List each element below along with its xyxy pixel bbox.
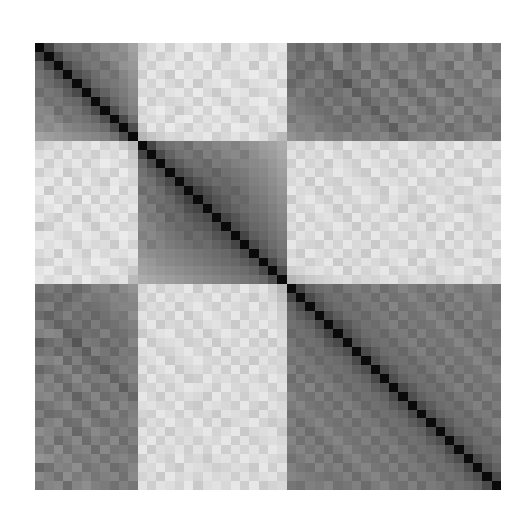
heatmap-cell xyxy=(343,392,352,401)
heatmap-cell xyxy=(277,293,286,302)
heatmap-cell xyxy=(147,311,156,320)
heatmap-cell xyxy=(91,347,100,356)
heatmap-cell xyxy=(91,410,100,419)
heatmap-cell xyxy=(259,195,268,204)
heatmap-cell xyxy=(249,418,258,427)
heatmap-cell xyxy=(333,52,342,61)
heatmap-cell xyxy=(333,141,342,150)
heatmap-cell xyxy=(193,52,202,61)
heatmap-cell xyxy=(454,258,463,267)
heatmap-cell xyxy=(371,132,380,141)
heatmap-cell xyxy=(156,249,165,258)
heatmap-cell xyxy=(408,177,417,186)
heatmap-cell xyxy=(464,231,473,240)
heatmap-cell xyxy=(259,204,268,213)
heatmap-cell xyxy=(287,275,296,284)
heatmap-cell xyxy=(119,347,128,356)
heatmap-cell xyxy=(212,115,221,124)
heatmap-cell xyxy=(128,106,137,115)
heatmap-cell xyxy=(445,115,454,124)
heatmap-cell xyxy=(91,293,100,302)
heatmap-cell xyxy=(315,481,324,490)
heatmap-cell xyxy=(44,302,53,311)
heatmap-cell xyxy=(119,97,128,106)
heatmap-cell xyxy=(72,79,81,88)
heatmap-cell xyxy=(128,70,137,79)
heatmap-cell xyxy=(193,418,202,427)
heatmap-cell xyxy=(259,445,268,454)
heatmap-cell xyxy=(398,338,407,347)
heatmap-cell xyxy=(287,168,296,177)
heatmap-cell xyxy=(100,383,109,392)
heatmap-cell xyxy=(333,472,342,481)
heatmap-cell xyxy=(445,311,454,320)
heatmap-cell xyxy=(371,338,380,347)
heatmap-cell xyxy=(249,481,258,490)
heatmap-cell xyxy=(277,392,286,401)
heatmap-cell xyxy=(119,159,128,168)
heatmap-cell xyxy=(305,472,314,481)
heatmap-cell xyxy=(352,266,361,275)
heatmap-cell xyxy=(408,231,417,240)
heatmap-cell xyxy=(212,186,221,195)
heatmap-cell xyxy=(436,463,445,472)
heatmap-cell xyxy=(426,186,435,195)
heatmap-cell xyxy=(398,70,407,79)
heatmap-cell xyxy=(343,43,352,52)
heatmap-cell xyxy=(482,383,491,392)
heatmap-cell xyxy=(464,258,473,267)
heatmap-cell xyxy=(44,168,53,177)
heatmap-cell xyxy=(389,204,398,213)
heatmap-cell xyxy=(296,410,305,419)
heatmap-cell xyxy=(454,374,463,383)
heatmap-cell xyxy=(482,472,491,481)
heatmap-cell xyxy=(473,222,482,231)
heatmap-cell xyxy=(398,249,407,258)
heatmap-cell xyxy=(203,427,212,436)
heatmap-cell xyxy=(240,159,249,168)
heatmap-cell xyxy=(380,320,389,329)
heatmap-cell xyxy=(100,329,109,338)
heatmap-cell xyxy=(240,52,249,61)
heatmap-cell xyxy=(165,141,174,150)
heatmap-cell xyxy=(296,231,305,240)
heatmap-cell xyxy=(72,392,81,401)
heatmap-cell xyxy=(277,311,286,320)
heatmap-cell xyxy=(445,436,454,445)
heatmap-cell xyxy=(91,123,100,132)
heatmap-cell xyxy=(212,159,221,168)
heatmap-cell xyxy=(128,43,137,52)
heatmap-cell xyxy=(138,347,147,356)
heatmap-cell xyxy=(91,195,100,204)
heatmap-cell xyxy=(436,168,445,177)
heatmap-cell xyxy=(54,222,63,231)
heatmap-cell xyxy=(324,222,333,231)
heatmap-cell xyxy=(296,204,305,213)
heatmap-cell xyxy=(464,168,473,177)
heatmap-cell xyxy=(389,284,398,293)
heatmap-cell xyxy=(380,445,389,454)
heatmap-cell xyxy=(436,410,445,419)
heatmap-cell xyxy=(454,275,463,284)
heatmap-cell xyxy=(371,159,380,168)
heatmap-cell xyxy=(156,383,165,392)
heatmap-cell xyxy=(110,213,119,222)
heatmap-cell xyxy=(203,275,212,284)
heatmap-cell xyxy=(128,392,137,401)
heatmap-cell xyxy=(268,204,277,213)
heatmap-cell xyxy=(212,427,221,436)
heatmap-cell xyxy=(119,88,128,97)
heatmap-cell xyxy=(82,168,91,177)
heatmap-cell xyxy=(231,52,240,61)
heatmap-cell xyxy=(343,445,352,454)
heatmap-cell xyxy=(296,123,305,132)
heatmap-cell xyxy=(110,52,119,61)
heatmap-cell xyxy=(352,115,361,124)
heatmap-cell xyxy=(165,410,174,419)
heatmap-cell xyxy=(231,338,240,347)
heatmap-cell xyxy=(138,436,147,445)
heatmap-cell xyxy=(296,293,305,302)
heatmap-cell xyxy=(110,329,119,338)
heatmap-cell xyxy=(380,374,389,383)
heatmap-cell xyxy=(249,284,258,293)
